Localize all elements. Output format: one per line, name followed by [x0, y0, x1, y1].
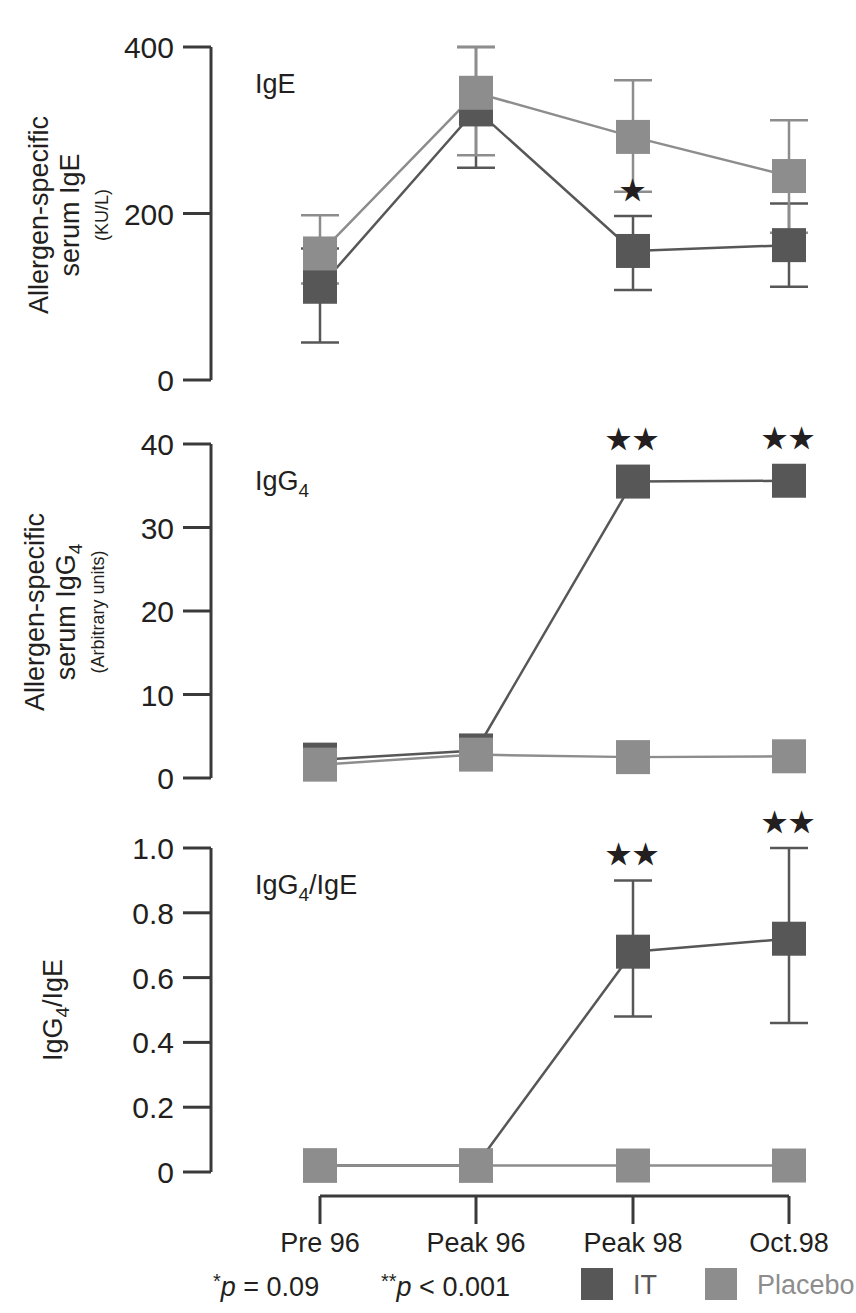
y-axis-ige: 4002000 — [124, 31, 211, 397]
y-tick-label: 200 — [124, 198, 174, 231]
significance-mark: ★★ — [606, 839, 660, 870]
y-tick-label: 30 — [141, 512, 174, 545]
y-axis-title-igg4: Allergen-specificserum IgG4(Arbitrary un… — [20, 513, 108, 711]
data-marker — [772, 739, 806, 773]
series-line-placebo — [320, 93, 789, 254]
y-axis-units: (KU/L) — [92, 189, 112, 241]
data-marker — [616, 740, 650, 774]
markers-it — [303, 922, 806, 1183]
data-marker — [303, 236, 337, 270]
y-tick-label: 0 — [157, 762, 174, 795]
markers-it — [303, 92, 806, 303]
legend-swatch-placebo — [705, 1268, 737, 1300]
figure-root: 4002000Allergen-specificserum IgE(KU/L)I… — [0, 0, 856, 1313]
y-tick-label: 1.0 — [132, 832, 174, 865]
y-tick-label: 40 — [141, 428, 174, 461]
panel-label-igg4: IgG4 — [255, 466, 310, 501]
significance-mark: ★ — [620, 175, 647, 206]
panel-label-ige: IgE — [255, 69, 296, 99]
y-axis-igg4: 403020100 — [141, 428, 211, 795]
y-tick-label: 0.2 — [132, 1091, 174, 1124]
data-marker — [772, 922, 806, 956]
y-axis-units: (Arbitrary units) — [88, 550, 108, 673]
legend-p-two-star: **p < 0.001 — [381, 1270, 510, 1302]
significance-mark: ★★ — [762, 423, 816, 454]
series-line-it — [320, 939, 789, 1166]
data-marker — [303, 1149, 337, 1183]
panel-igg4: 403020100Allergen-specificserum IgG4(Arb… — [20, 423, 816, 795]
y-tick-label: 0.6 — [132, 962, 174, 995]
y-axis-title-line: Allergen-specific — [24, 116, 54, 314]
y-axis-ratio: 1.00.80.60.40.20 — [132, 832, 211, 1189]
x-tick-label: Peak 96 — [426, 1228, 525, 1258]
series-line-it — [320, 481, 789, 760]
y-axis-title-ratio: IgG4/IgE — [38, 959, 73, 1061]
data-marker — [616, 120, 650, 154]
legend-label-it: IT — [633, 1270, 657, 1300]
x-tick-label: Pre 96 — [280, 1228, 360, 1258]
data-marker — [616, 1149, 650, 1183]
y-axis-title-line: serum IgE — [55, 153, 85, 276]
data-marker — [772, 228, 806, 262]
data-marker — [616, 935, 650, 969]
y-tick-label: 0.8 — [132, 897, 174, 930]
panel-label-ratio: IgG4/IgE — [255, 870, 357, 905]
y-axis-title-line: IgG4/IgE — [38, 959, 73, 1061]
y-tick-label: 0 — [157, 364, 174, 397]
panel-ratio: 1.00.80.60.40.20IgG4/IgEIgG4/IgE★★★★ — [38, 807, 816, 1189]
y-tick-label: 10 — [141, 679, 174, 712]
y-tick-label: 400 — [124, 31, 174, 64]
data-marker — [459, 76, 493, 110]
y-axis-title-ige: Allergen-specificserum IgE(KU/L) — [24, 116, 112, 314]
data-marker — [772, 1149, 806, 1183]
x-tick-label: Oct.98 — [749, 1228, 829, 1258]
y-axis-title-line: Allergen-specific — [20, 513, 50, 711]
legend: *p = 0.09**p < 0.001ITPlacebo — [213, 1268, 855, 1302]
multi-panel-chart: 4002000Allergen-specificserum IgE(KU/L)I… — [0, 0, 856, 1313]
x-tick-label: Peak 98 — [583, 1228, 682, 1258]
x-axis: Pre 96Peak 96Peak 98Oct.98 — [280, 1196, 829, 1258]
legend-p-one-star: *p = 0.09 — [213, 1270, 319, 1302]
y-axis-title-line: serum IgG4 — [51, 543, 86, 680]
legend-swatch-it — [581, 1268, 613, 1300]
markers-placebo — [303, 738, 806, 782]
data-marker — [772, 159, 806, 193]
y-tick-label: 0.4 — [132, 1026, 174, 1059]
series-line-it — [320, 109, 789, 286]
markers-it — [303, 464, 806, 777]
significance-mark: ★★ — [762, 807, 816, 838]
panel-ige: 4002000Allergen-specificserum IgE(KU/L)I… — [24, 31, 808, 397]
markers-placebo — [303, 76, 806, 271]
data-marker — [303, 748, 337, 782]
significance-mark: ★★ — [606, 424, 660, 455]
data-marker — [772, 464, 806, 498]
y-tick-label: 20 — [141, 595, 174, 628]
data-marker — [459, 1149, 493, 1183]
y-tick-label: 0 — [157, 1156, 174, 1189]
data-marker — [616, 234, 650, 268]
legend-label-placebo: Placebo — [757, 1270, 855, 1300]
data-marker — [459, 738, 493, 772]
data-marker — [616, 465, 650, 499]
data-marker — [303, 270, 337, 304]
